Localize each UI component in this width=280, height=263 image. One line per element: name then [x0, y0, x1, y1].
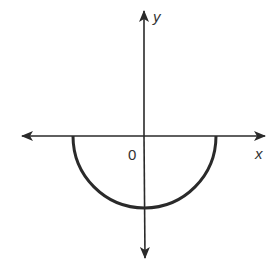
coordinate-plane-figure: y x 0 — [0, 0, 280, 263]
y-axis-label: y — [152, 8, 162, 25]
x-axis-label: x — [254, 145, 263, 162]
origin-label: 0 — [128, 146, 136, 163]
y-axis — [144, 11, 145, 258]
